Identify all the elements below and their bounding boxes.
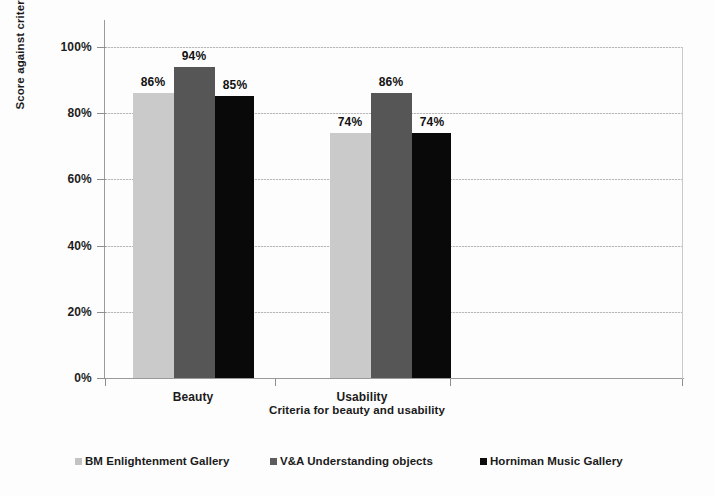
bar-usability-bm-enlightenment-gallery[interactable] xyxy=(330,133,371,378)
x-axis-title: Criteria for beauty and usability xyxy=(0,404,714,416)
bar-beauty-bm-enlightenment-gallery[interactable] xyxy=(133,93,174,378)
x-tick-mark-2 xyxy=(450,379,451,386)
chart-legend: BM Enlightenment Gallery V&A Understandi… xyxy=(0,452,714,474)
square-swatch-icon xyxy=(270,458,277,465)
bar-label-usability-bm: 74% xyxy=(322,115,378,129)
legend-item-va-understanding-objects[interactable]: V&A Understanding objects xyxy=(270,452,433,470)
bar-beauty-va-understanding-objects[interactable] xyxy=(174,67,215,378)
legend-label-horniman-music-gallery: Horniman Music Gallery xyxy=(490,455,623,467)
x-tick-mark-1 xyxy=(275,379,276,386)
bar-label-beauty-bm: 86% xyxy=(125,75,181,89)
x-tick-mark-3 xyxy=(682,379,683,386)
x-tick-mark-0 xyxy=(105,379,106,386)
bars-layer xyxy=(0,0,714,379)
x-category-label-beauty: Beauty xyxy=(118,390,268,404)
bar-beauty-horniman-music-gallery[interactable] xyxy=(215,96,254,378)
x-category-label-usability: Usability xyxy=(287,390,437,404)
bar-label-beauty-va: 94% xyxy=(166,49,222,63)
bar-usability-va-understanding-objects[interactable] xyxy=(371,93,412,378)
square-swatch-icon xyxy=(480,458,487,465)
square-swatch-icon xyxy=(75,458,82,465)
legend-item-horniman-music-gallery[interactable]: Horniman Music Gallery xyxy=(480,452,623,470)
bar-chart: Score against criteria 100% 80% 60% 40% … xyxy=(0,0,714,496)
bar-label-usability-horniman: 74% xyxy=(404,115,460,129)
legend-item-bm-enlightenment-gallery[interactable]: BM Enlightenment Gallery xyxy=(75,452,229,470)
bar-label-beauty-horniman: 85% xyxy=(207,78,263,92)
bar-label-usability-va: 86% xyxy=(363,75,419,89)
legend-label-va-understanding-objects: V&A Understanding objects xyxy=(280,455,433,467)
legend-label-bm-enlightenment-gallery: BM Enlightenment Gallery xyxy=(85,455,229,467)
bar-usability-horniman-music-gallery[interactable] xyxy=(412,133,451,378)
